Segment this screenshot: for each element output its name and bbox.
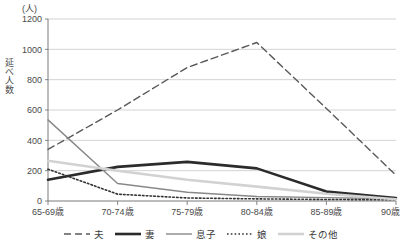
gridlines (48, 19, 396, 171)
light-solid-line-swatch (278, 229, 304, 239)
legend-label: 娘 (257, 227, 267, 241)
legend-item-その他[interactable]: その他 (278, 227, 338, 241)
data-series-lines (48, 43, 396, 200)
series-line-息子 (48, 120, 396, 199)
x-tick-label: 90歳 (381, 206, 400, 217)
solid-line-swatch (166, 229, 192, 239)
plot-area: 020040060080010001200 65-69歳70-74歳75-79歳… (0, 0, 402, 251)
legend-item-息子[interactable]: 息子 (166, 227, 216, 241)
y-tick-label: 0 (37, 196, 42, 206)
y-tick-label: 800 (27, 75, 42, 85)
x-tick-label: 85-89歳 (310, 206, 342, 217)
dashed-line-swatch (64, 229, 90, 239)
series-line-夫 (48, 43, 396, 176)
y-tick-label: 1000 (22, 45, 42, 55)
dotted-line-swatch (227, 229, 253, 239)
y-tick-label: 600 (27, 105, 42, 115)
x-tick-label: 65-69歳 (32, 206, 64, 217)
x-tick-label: 80-84歳 (241, 206, 273, 217)
legend-label: 妻 (145, 227, 155, 241)
line-chart: (人) 延べ人数 020040060080010001200 65-69歳70-… (0, 0, 402, 251)
legend-label: 息子 (196, 227, 216, 241)
y-tick-label: 400 (27, 136, 42, 146)
legend-label: その他 (308, 227, 338, 241)
x-axis-ticks (48, 201, 396, 205)
legend-item-妻[interactable]: 妻 (115, 227, 155, 241)
x-tick-label: 70-74歳 (102, 206, 134, 217)
x-axis-tick-labels: 65-69歳70-74歳75-79歳80-84歳85-89歳90歳 (32, 206, 400, 217)
legend-item-夫[interactable]: 夫 (64, 227, 104, 241)
y-tick-label: 1200 (22, 14, 42, 24)
x-tick-label: 75-79歳 (171, 206, 203, 217)
thick-solid-line-swatch (115, 229, 141, 239)
legend-item-娘[interactable]: 娘 (227, 227, 267, 241)
legend-label: 夫 (94, 227, 104, 241)
y-axis-tick-labels: 020040060080010001200 (22, 14, 48, 206)
chart-legend: 夫妻息子娘その他 (0, 227, 402, 241)
y-tick-label: 200 (27, 166, 42, 176)
